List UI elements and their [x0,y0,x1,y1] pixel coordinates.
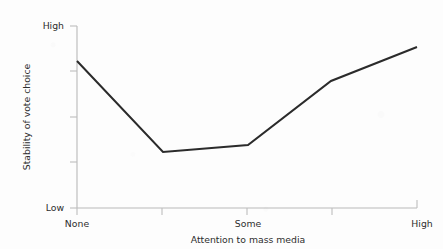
y-axis-label-high: High [43,20,64,31]
x-axis-title: Attention to mass media [191,234,306,245]
data-series-line [77,47,417,152]
x-axis-label-none: None [65,218,90,229]
chart-figure: High Low None Some High Attention to mas… [0,0,443,249]
line-chart-svg: High Low None Some High Attention to mas… [0,0,443,249]
y-axis-label-low: Low [46,202,65,213]
x-axis-label-some: Some [235,218,262,229]
x-axis-label-high: High [411,218,432,229]
y-axis-title: Stability of vote choice [21,63,32,170]
